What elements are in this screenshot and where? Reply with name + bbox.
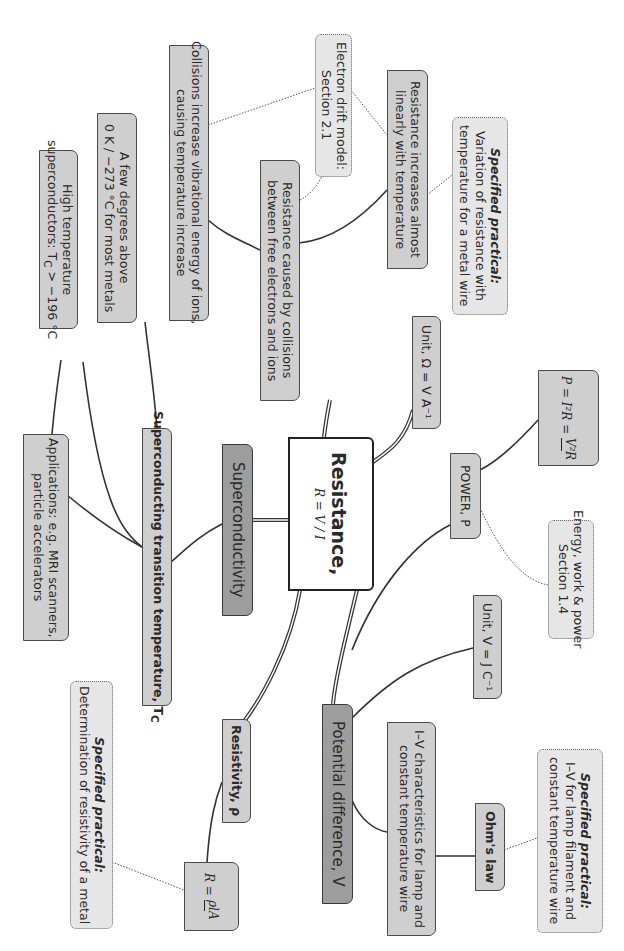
- practical-temperature-title: Specified practical:: [488, 125, 503, 306]
- energy-line1: Energy, work & power: [571, 510, 586, 648]
- collisions-node[interactable]: Collisions increase vibrational energy o…: [169, 45, 209, 321]
- energy-line2: Section 1.4: [556, 544, 571, 614]
- ohms-law-label: Ohm's law: [483, 811, 498, 883]
- practical-iv-title: Specified practical:: [578, 757, 593, 924]
- practical-resistivity-node[interactable]: Specified practical:Determination of res…: [70, 681, 113, 929]
- superconductivity-label: Superconductivity: [228, 462, 246, 598]
- resistance-center-node[interactable]: Resistance, R = V / I: [288, 437, 374, 591]
- practical-temperature-line1: Variation of resistance with: [473, 131, 488, 301]
- applications-line2: particle accelerators: [31, 473, 46, 601]
- resistivity-formula-num: ρl: [204, 900, 222, 911]
- few-degrees-line2: 0 K / −273 °C for most metals: [102, 124, 117, 312]
- electron-drift-reference[interactable]: Electron drift model:Section 2.1: [315, 34, 352, 177]
- transition-label: Superconducting transition temperature, …: [151, 411, 166, 715]
- electron-drift-line2: Section 2.1: [319, 70, 334, 140]
- potential-difference-node[interactable]: Potential difference, V: [322, 704, 353, 904]
- few-degrees-node[interactable]: A few degrees above0 K / −273 °C for mos…: [97, 113, 137, 323]
- resistivity-label: Resistivity, ρ: [229, 725, 244, 816]
- resistivity-formula-node[interactable]: R = ρlA: [184, 862, 239, 931]
- unit-volt-label: Unit, V = J C⁻¹: [480, 603, 495, 691]
- unit-ohm-label: Unit, Ω = V A⁻¹: [419, 325, 434, 419]
- potential-difference-label: Potential difference, V: [328, 721, 346, 887]
- collisions-line2: causing temperature increase: [174, 89, 189, 277]
- power-node[interactable]: POWER, P: [450, 453, 481, 539]
- transition-subscript: C: [149, 715, 161, 723]
- resistance-increases-node[interactable]: Resistance increases almostlinearly with…: [387, 70, 428, 269]
- practical-iv-line1: I–V for lamp filament and: [563, 762, 578, 920]
- resistivity-formula-den: A: [204, 911, 221, 920]
- practical-iv-node[interactable]: Specified practical:I–V for lamp filamen…: [537, 749, 603, 933]
- power-formula-num: V²: [561, 438, 579, 451]
- iv-line2: constant temperature wire: [397, 745, 412, 912]
- few-degrees-line1: A few degrees above: [117, 152, 132, 283]
- power-formula-node[interactable]: P = I²R = V²R: [538, 370, 599, 466]
- resistivity-formula-lhs: R =: [202, 873, 216, 900]
- practical-iv-line2: constant temperature wire: [547, 757, 562, 924]
- resistance-cause-line2: between free electrons and ions: [265, 180, 280, 381]
- applications-node[interactable]: Applications: e.g. MRI scanners,particle…: [23, 434, 69, 641]
- resistivity-node[interactable]: Resistivity, ρ: [222, 719, 251, 823]
- ohms-law-node[interactable]: Ohm's law: [475, 803, 505, 891]
- center-title: Resistance,: [328, 452, 350, 575]
- practical-resistivity-title: Specified practical:: [92, 686, 107, 924]
- high-temperature-node[interactable]: High temperaturesuperconductors: TC > −1…: [39, 150, 78, 329]
- resistance-cause-node[interactable]: Resistance caused by collisionsbetween f…: [260, 160, 300, 401]
- superconductivity-node[interactable]: Superconductivity: [222, 444, 253, 616]
- practical-temperature-line2: temperature for a metal wire: [457, 125, 472, 306]
- electron-drift-line1: Electron drift model:: [334, 42, 349, 170]
- resistance-cause-line1: Resistance caused by collisions: [280, 182, 295, 378]
- high-temp-line2: superconductors: T: [45, 140, 60, 260]
- unit-volt-node[interactable]: Unit, V = J C⁻¹: [473, 595, 502, 699]
- practical-resistivity-line1: Determination of resistivity of a metal: [77, 686, 92, 924]
- energy-work-reference[interactable]: Energy, work & powerSection 1.4: [548, 520, 594, 639]
- practical-temperature-node[interactable]: Specified practical:Variation of resista…: [452, 117, 508, 315]
- increases-line2: linearly with temperature: [393, 90, 408, 249]
- iv-characteristics-node[interactable]: I–V characteristics for lamp andconstant…: [387, 722, 436, 936]
- collisions-line1: Collisions increase vibrational energy o…: [189, 41, 204, 324]
- applications-line1: Applications: e.g. MRI scanners,: [46, 438, 61, 637]
- unit-ohm-node[interactable]: Unit, Ω = V A⁻¹: [412, 316, 441, 429]
- power-label: POWER, P: [458, 465, 473, 527]
- transition-temperature-node[interactable]: Superconducting transition temperature, …: [142, 428, 172, 706]
- power-formula-den: R: [561, 451, 578, 460]
- increases-line1: Resistance increases almost: [408, 81, 423, 258]
- high-temp-line2-end: > −196 °C: [45, 267, 60, 339]
- iv-line1: I–V characteristics for lamp and: [412, 730, 427, 928]
- center-formula: R = V / I: [312, 488, 326, 540]
- power-formula-lhs: P = I²R =: [559, 376, 573, 438]
- high-temp-line1: High temperature: [60, 184, 75, 295]
